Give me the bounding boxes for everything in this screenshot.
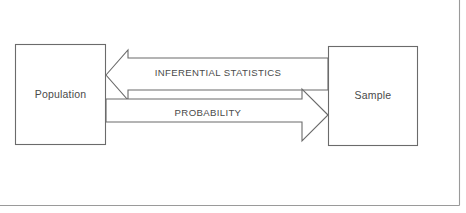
inferential-statistics-label: INFERENTIAL STATISTICS (155, 67, 281, 78)
population-label: Population (35, 88, 87, 100)
sample-label: Sample (355, 89, 392, 101)
statistics-relationship-diagram: Population Sample INFERENTIAL STATISTICS… (0, 0, 466, 213)
diagram-canvas: Population Sample INFERENTIAL STATISTICS… (0, 0, 466, 213)
probability-label: PROBABILITY (175, 107, 242, 118)
